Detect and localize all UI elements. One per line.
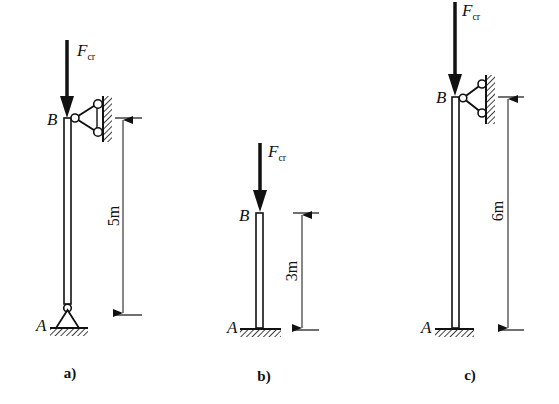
pin-icon bbox=[71, 114, 79, 122]
bottom-pin-support-a bbox=[50, 304, 88, 336]
ground-hatch-icon bbox=[240, 330, 281, 337]
column-buckling-diagram: Fcr B A 5m a) bbox=[0, 0, 559, 404]
length-label-a: 5m bbox=[105, 205, 122, 226]
top-support-c bbox=[459, 75, 495, 124]
node-label-a-a: A bbox=[35, 316, 47, 335]
wall-hatch-icon bbox=[104, 96, 112, 142]
pin-icon bbox=[459, 94, 467, 102]
ground-hatch-icon bbox=[435, 330, 474, 337]
node-label-b-b: B bbox=[239, 206, 250, 225]
pin-icon bbox=[94, 128, 103, 137]
caption-a: a) bbox=[64, 365, 77, 382]
node-label-b-c: B bbox=[436, 88, 447, 107]
column-b bbox=[256, 213, 263, 328]
figure-c: Fcr B A 6m c) bbox=[420, 1, 524, 384]
force-label-a: Fcr bbox=[76, 41, 96, 62]
length-label-b: 3m bbox=[283, 260, 300, 281]
column-c bbox=[452, 97, 459, 328]
top-support-a bbox=[71, 96, 112, 142]
node-label-a-c: A bbox=[420, 318, 432, 337]
figure-b: Fcr B A 3m b) bbox=[226, 142, 319, 385]
bottom-fixed-support-b bbox=[240, 329, 281, 337]
column-a bbox=[64, 118, 71, 304]
force-arrow-icon bbox=[448, 2, 462, 96]
force-arrow-icon bbox=[60, 40, 74, 118]
caption-b: b) bbox=[257, 368, 270, 385]
node-label-a-b: A bbox=[226, 318, 238, 337]
pin-icon bbox=[478, 109, 486, 117]
bottom-fixed-support-c bbox=[435, 329, 474, 337]
caption-c: c) bbox=[464, 367, 476, 384]
length-label-c: 6m bbox=[489, 200, 506, 221]
force-label-b: Fcr bbox=[267, 142, 287, 163]
wall-hatch-icon bbox=[487, 75, 495, 124]
force-label-c: Fcr bbox=[461, 1, 481, 22]
ground-hatch-icon bbox=[50, 329, 88, 336]
force-arrow-icon bbox=[253, 143, 267, 212]
node-label-b-a: B bbox=[47, 110, 58, 129]
pin-icon bbox=[94, 100, 103, 109]
figure-a: Fcr B A 5m a) bbox=[35, 40, 142, 382]
pin-icon bbox=[478, 80, 486, 88]
